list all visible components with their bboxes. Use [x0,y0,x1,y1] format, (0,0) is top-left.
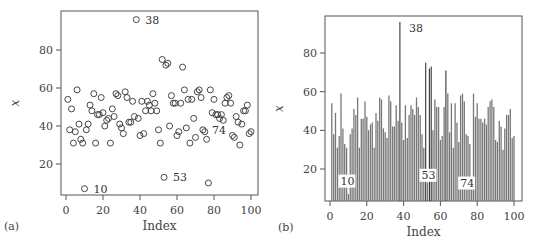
data-point [89,108,95,114]
data-point [189,96,195,102]
data-point [130,98,136,104]
panel-label: (a) [4,220,19,233]
data-point [239,121,245,127]
data-point [198,95,204,101]
data-point [183,125,189,131]
y-tick-label: 80 [39,44,53,57]
data-point [100,110,106,116]
panel-b: 20406080020406080100Indexx(b)38105374 [272,16,525,239]
x-tick-label: 100 [504,210,525,223]
point-annotation: 74 [212,124,226,137]
y-axis-label: x [272,105,286,112]
data-point [72,129,78,135]
x-tick-label: 0 [63,204,70,217]
x-tick-label: 60 [170,204,184,217]
figure: 20406080020406080100Indexx(a)38105374204… [0,0,535,250]
x-tick-label: 80 [207,204,221,217]
data-point [107,140,113,146]
y-axis-label: x [8,99,22,106]
data-point [124,95,130,101]
data-point [102,123,108,129]
data-point [65,96,71,102]
data-point [119,125,125,131]
data-point [193,134,199,140]
panel-a: 20406080020406080100Indexx(a)38105374 [4,11,262,233]
data-point [131,114,137,120]
data-point [233,114,239,120]
data-point [152,100,158,106]
x-tick-label: 20 [96,204,110,217]
x-tick-label: 40 [133,204,147,217]
data-point [137,133,143,139]
data-point [235,119,241,125]
data-point [87,102,93,108]
x-tick-label: 20 [360,210,374,223]
data-point [67,127,73,133]
y-tick-label: 40 [39,120,53,133]
y-tick-label: 80 [303,47,317,60]
data-point [82,186,88,192]
data-point [207,87,213,93]
data-point [237,142,243,148]
point-annotation: 53 [173,171,187,184]
bar-annotation: 74 [460,177,474,190]
data-point [74,87,80,93]
data-point [76,121,82,127]
data-point [141,131,147,137]
data-point [117,121,123,127]
y-tick-label: 20 [303,163,317,176]
bar-annotation: 10 [340,175,354,188]
x-axis-label: Index [406,225,440,239]
bar-annotation: 53 [422,169,436,182]
data-point [144,98,150,104]
data-point [139,98,145,104]
point-annotation: 10 [94,183,108,196]
x-tick-label: 40 [397,210,411,223]
data-point [122,89,128,95]
bar-annotation: 38 [409,22,423,35]
data-point [133,17,139,23]
data-point [157,140,163,146]
panel-label: (b) [278,221,294,234]
data-point [180,64,186,70]
data-point [211,96,217,102]
data-point [93,140,99,146]
data-point [167,123,173,129]
x-tick-label: 60 [433,210,447,223]
data-point [85,121,91,127]
data-point [244,102,250,108]
data-point [204,136,210,142]
data-point [120,131,126,137]
x-tick-label: 80 [470,210,484,223]
data-point [159,57,165,63]
point-annotation: 38 [145,14,159,27]
x-tick-label: 100 [241,204,262,217]
data-point [154,108,160,114]
data-point [70,140,76,146]
data-point [69,106,75,112]
data-point [176,129,182,135]
data-point [228,100,234,106]
data-point [217,115,223,121]
data-point [80,140,86,146]
data-point [161,174,167,180]
data-point [191,115,197,121]
data-point [109,106,115,112]
data-point [98,95,104,101]
y-tick-label: 60 [303,86,317,99]
data-point [205,180,211,186]
data-point [187,140,193,146]
data-point [222,100,228,106]
data-point [135,115,141,121]
data-point [150,91,156,97]
data-point [174,133,180,139]
data-point [168,93,174,99]
y-tick-label: 20 [39,158,53,171]
data-point [181,87,187,93]
data-point [111,114,117,120]
y-tick-label: 40 [303,124,317,137]
data-point [156,127,162,133]
x-tick-label: 0 [327,210,334,223]
data-point [218,112,224,118]
data-point [83,127,89,133]
